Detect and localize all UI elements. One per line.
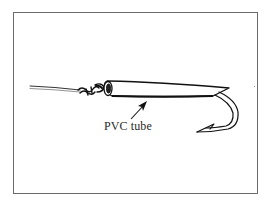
fish-hook [197, 92, 238, 132]
scan-speck [254, 86, 255, 87]
pvc-tube [104, 81, 229, 97]
fishing-line [30, 86, 80, 92]
pvc-tube-label: PVC tube [104, 119, 152, 134]
pointer-arrow-icon [131, 101, 147, 119]
hook-illustration [0, 0, 271, 206]
knot [78, 84, 104, 95]
